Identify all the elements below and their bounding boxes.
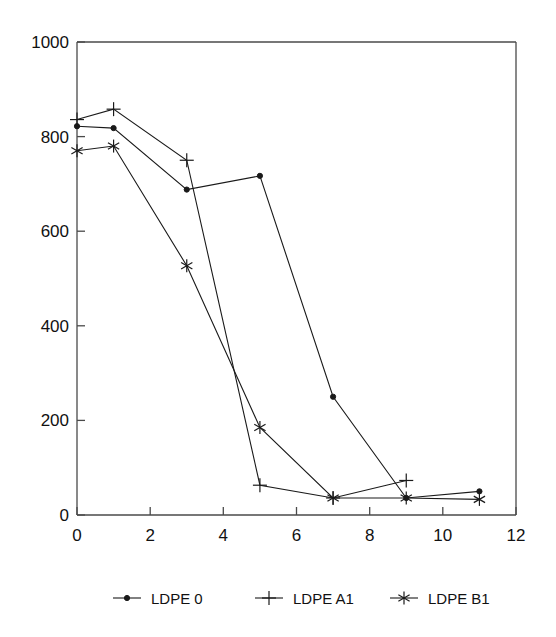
legend-item-ldpe-0[interactable]: LDPE 0: [113, 590, 203, 607]
x-tick-label-2: 2: [145, 526, 154, 545]
plus-marker-icon: [107, 102, 121, 116]
series-line: [77, 126, 479, 498]
x-tick-label-8: 8: [365, 526, 374, 545]
star-marker-icon: [181, 259, 192, 272]
legend-item-ldpe-b1[interactable]: LDPE B1: [390, 590, 490, 607]
dot-marker-icon: [330, 394, 335, 399]
data-series-layer: [70, 102, 485, 506]
y-tick-label-800: 800: [41, 128, 69, 147]
plus-marker-icon: [253, 478, 267, 492]
y-tick-label-0: 0: [60, 506, 69, 525]
y-tick-label-600: 600: [41, 222, 69, 241]
chart-legend: LDPE 0LDPE A1LDPE B1: [113, 590, 490, 607]
legend-label: LDPE 0: [151, 590, 203, 607]
x-tick-label-0: 0: [72, 526, 81, 545]
series-line: [77, 146, 479, 499]
x-tick-label-10: 10: [433, 526, 452, 545]
dot-marker-icon: [257, 173, 262, 178]
line-chart: 0 200 400 600 800 1000 0 2 4 6 8 10 12: [0, 0, 556, 637]
x-axis-ticks: 0 2 4 6 8 10 12: [72, 507, 525, 545]
plus-marker-icon: [70, 113, 84, 127]
plus-marker-icon: [180, 153, 194, 167]
legend-label: LDPE B1: [428, 590, 490, 607]
dot-marker-icon: [184, 187, 189, 192]
dot-marker-icon: [124, 595, 129, 600]
y-tick-label-200: 200: [41, 411, 69, 430]
series-ldpe-a1: [70, 102, 413, 505]
legend-item-ldpe-a1[interactable]: LDPE A1: [255, 590, 354, 607]
series-ldpe-0: [74, 124, 482, 501]
x-tick-label-6: 6: [292, 526, 301, 545]
chart-container: 0 200 400 600 800 1000 0 2 4 6 8 10 12: [0, 0, 556, 637]
dot-marker-icon: [111, 125, 116, 130]
y-tick-label-1000: 1000: [31, 33, 69, 52]
plot-axes: [77, 42, 516, 515]
y-tick-label-400: 400: [41, 317, 69, 336]
plus-marker-icon: [262, 591, 276, 605]
legend-label: LDPE A1: [293, 590, 354, 607]
plus-marker-icon: [399, 473, 413, 487]
x-tick-label-4: 4: [219, 526, 228, 545]
series-ldpe-b1: [71, 140, 485, 506]
x-tick-label-12: 12: [507, 526, 526, 545]
